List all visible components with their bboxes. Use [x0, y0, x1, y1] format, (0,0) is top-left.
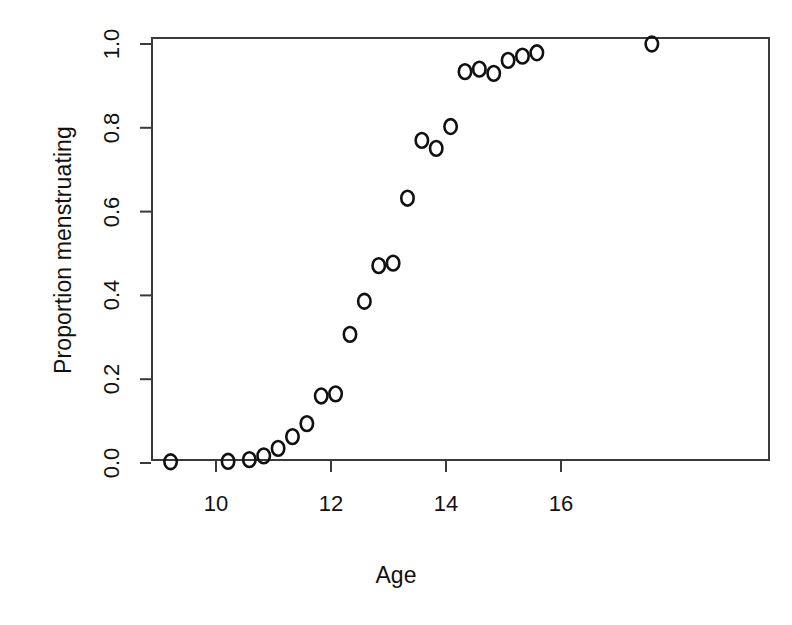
y-tick-label-4: 0.8 [99, 98, 125, 158]
y-axis-title: Proportion menstruating [46, 30, 80, 470]
scatter-plot-figure: Proportion menstruating Age 0.0 0.2 0.4 … [0, 0, 792, 625]
x-tick-label-2: 14 [416, 491, 476, 517]
y-tick-label-0: 0.0 [99, 433, 125, 493]
y-tick-label-2: 0.4 [99, 265, 125, 325]
x-tick-label-0: 10 [186, 491, 246, 517]
y-tick-label-5: 1.0 [99, 14, 125, 74]
x-axis-title: Age [0, 562, 792, 589]
y-tick-label-3: 0.6 [99, 182, 125, 242]
y-tick-label-1: 0.2 [99, 349, 125, 409]
plot-frame [151, 37, 770, 461]
x-tick-label-1: 12 [301, 491, 361, 517]
x-tick-label-3: 16 [531, 491, 591, 517]
